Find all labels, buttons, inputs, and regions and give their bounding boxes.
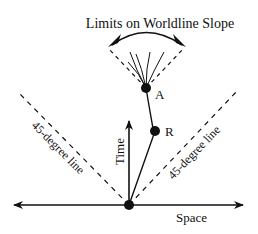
worldline	[129, 88, 154, 205]
event-a-label: A	[155, 87, 165, 102]
left-45-degree-label: 45-degree line	[29, 118, 88, 177]
origin-event-dot	[124, 200, 134, 210]
possible-worldlines	[128, 52, 164, 88]
right-45-degree-label: 45-degree line	[165, 123, 223, 182]
right-45-degree-line	[129, 90, 238, 205]
spacetime-diagram: Limits on Worldline Slope 45-degree line…	[0, 0, 258, 234]
space-axis-label: Space	[176, 210, 207, 225]
cone-line-left	[108, 48, 146, 88]
slope-limit-arc	[112, 33, 182, 46]
cone-line-right	[146, 48, 184, 88]
event-a-dot	[141, 83, 151, 93]
event-r-dot	[150, 126, 160, 136]
event-r-label: R	[165, 124, 174, 139]
time-axis-label: Time	[112, 138, 127, 165]
diagram-title: Limits on Worldline Slope	[86, 16, 234, 31]
